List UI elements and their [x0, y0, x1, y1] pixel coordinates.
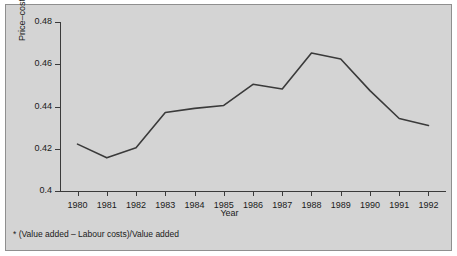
y-tick-mark	[55, 149, 60, 150]
plot-area: 0.40.420.440.460.48 19801981198219831984…	[60, 22, 445, 191]
x-tick-mark	[195, 191, 196, 196]
x-tick-mark	[428, 191, 429, 196]
series-line-price-cost-margin	[78, 53, 429, 158]
x-tick-mark	[282, 191, 283, 196]
y-tick-label: 0.4	[39, 184, 52, 197]
y-tick-label: 0.48	[34, 15, 52, 28]
x-tick-mark	[399, 191, 400, 196]
footnote-text: * (Value added – Labour costs)/Value add…	[13, 229, 179, 239]
x-axis-title: Year	[6, 208, 453, 218]
x-tick-mark	[136, 191, 137, 196]
x-tick-mark	[370, 191, 371, 196]
screenshot-root: 0.40.420.440.460.48 19801981198219831984…	[0, 0, 457, 256]
y-tick-label: 0.46	[34, 57, 52, 70]
x-tick-mark	[253, 191, 254, 196]
x-tick-mark	[224, 191, 225, 196]
x-tick-mark	[311, 191, 312, 196]
y-tick-mark	[55, 191, 60, 192]
y-tick-label: 0.42	[34, 142, 52, 155]
y-tick-label: 0.44	[34, 100, 52, 113]
x-tick-mark	[165, 191, 166, 196]
x-tick-mark	[341, 191, 342, 196]
y-tick-mark	[55, 64, 60, 65]
y-tick-mark	[55, 22, 60, 23]
x-tick-mark	[78, 191, 79, 196]
y-axis-title: Price–cost margin*	[17, 0, 27, 41]
chart-figure-panel: 0.40.420.440.460.48 19801981198219831984…	[5, 4, 452, 251]
data-line-series	[60, 22, 446, 192]
y-tick-mark	[55, 107, 60, 108]
x-tick-mark	[107, 191, 108, 196]
